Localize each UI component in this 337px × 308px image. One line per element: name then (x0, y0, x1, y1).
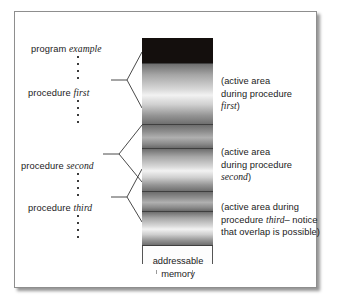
memory-band-program-example (142, 38, 213, 63)
label-third-keyword: procedure (28, 203, 71, 213)
label-second-name: second (66, 160, 93, 171)
memory-band-overlap (142, 192, 213, 211)
annotation-second-line-3: second) (221, 171, 325, 184)
figure-frame: program example procedure first procedur… (14, 11, 317, 288)
annotation-third-line-1: (active area during (221, 201, 333, 214)
bar-caption: addressable memory (123, 255, 233, 280)
memory-band-gap-1 (142, 125, 213, 148)
addressable-memory-bar (142, 38, 213, 245)
annotation-procedure-second: (active area during procedure second) (221, 146, 325, 184)
label-program-example: program example (31, 43, 102, 54)
label-procedure-third: procedure third (28, 202, 92, 213)
annotation-third-head: procedure (221, 215, 266, 225)
annotation-first-name: first (221, 100, 237, 111)
annotation-third-name: third (266, 214, 285, 225)
annotation-first-line-2: during procedure (221, 88, 325, 101)
label-third-name: third (73, 202, 92, 213)
label-procedure-second: procedure second (21, 160, 94, 171)
dotted-line-1 (77, 56, 79, 83)
annotation-first-line-1: (active area (221, 75, 325, 88)
label-first-keyword: procedure (28, 88, 71, 98)
memory-band-procedure-second (142, 149, 213, 191)
annotation-first-tail: ) (237, 101, 240, 111)
label-program-name: example (69, 43, 102, 54)
annotation-third-line-3: that overlap is possible) (221, 226, 333, 239)
annotation-third-tail: – notice (285, 215, 318, 225)
dotted-line-3 (77, 173, 79, 198)
annotation-second-tail: ) (248, 172, 251, 182)
annotation-first-line-3: first) (221, 100, 325, 113)
memory-band-procedure-third (142, 212, 213, 245)
label-procedure-first: procedure first (28, 87, 89, 98)
label-second-keyword: procedure (21, 161, 64, 171)
annotation-second-line-1: (active area (221, 146, 325, 159)
bar-caption-line-2: memory (123, 268, 233, 281)
annotation-third-line-2: procedure third– notice (221, 214, 333, 227)
memory-band-procedure-first (142, 64, 213, 124)
annotation-second-name: second (221, 171, 248, 182)
dotted-line-2 (77, 100, 79, 127)
annotation-procedure-third: (active area during procedure third– not… (221, 201, 333, 239)
label-program-keyword: program (31, 44, 66, 54)
annotation-second-line-2: during procedure (221, 159, 325, 172)
dotted-line-4 (77, 215, 79, 242)
label-first-name: first (73, 87, 89, 98)
annotation-procedure-first: (active area during procedure first) (221, 75, 325, 113)
bar-caption-line-1: addressable (123, 255, 233, 268)
